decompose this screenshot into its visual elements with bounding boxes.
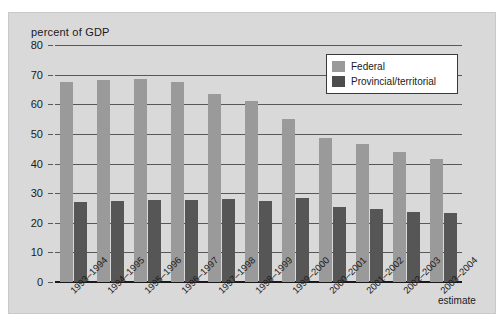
y-axis-title: percent of GDP [31,26,110,38]
chart-figure: percent of GDP 01020304050607080 1993–19… [0,0,504,326]
y-axis-tick [48,75,53,76]
legend-label-provincial: Provincial/territorial [351,76,436,87]
y-axis-tick-label: 10 [13,246,43,258]
y-axis-tick [48,282,53,283]
gridline [55,45,462,46]
y-axis-tick [48,104,53,105]
y-axis-tick [48,252,53,253]
chart-legend: Federal Provincial/territorial [326,54,458,94]
bar [60,82,73,282]
y-axis-tick-label: 40 [13,158,43,170]
bar [134,79,147,282]
y-axis-tick [48,193,53,194]
legend-item-provincial: Provincial/territorial [332,74,452,89]
y-axis-tick [48,164,53,165]
y-axis-tick [48,223,53,224]
bar [208,94,221,282]
federal-swatch-icon [332,61,345,72]
legend-label-federal: Federal [351,61,385,72]
y-axis-tick-label: 70 [13,69,43,81]
y-axis-tick-label: 50 [13,128,43,140]
y-axis-tick-label: 80 [13,39,43,51]
gridline [55,104,462,105]
provincial-swatch-icon [332,76,345,87]
y-axis-tick [48,45,53,46]
bar [245,101,258,282]
y-axis-tick-label: 30 [13,187,43,199]
bar [97,80,110,282]
y-axis-tick-label: 20 [13,217,43,229]
legend-item-federal: Federal [332,59,452,74]
estimate-note: estimate [438,295,476,306]
y-axis-tick-label: 60 [13,98,43,110]
y-axis-tick-label: 0 [13,276,43,288]
bar [171,82,184,282]
y-axis-tick [48,134,53,135]
gridline [55,134,462,135]
